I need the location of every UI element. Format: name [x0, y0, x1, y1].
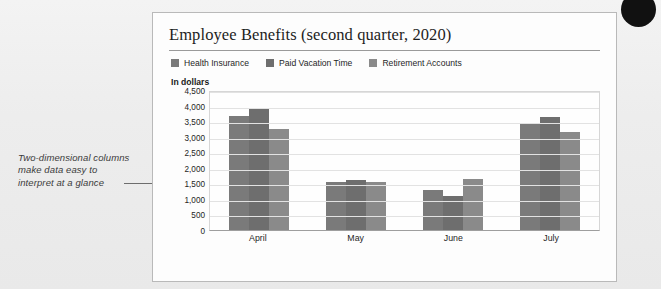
legend-item-1: Paid Vacation Time	[266, 58, 352, 68]
bar	[366, 182, 386, 230]
legend-label: Paid Vacation Time	[279, 58, 352, 68]
legend-swatch-icon	[266, 59, 274, 67]
bar	[560, 132, 580, 230]
chart-card: Employee Benefits (second quarter, 2020)…	[152, 12, 617, 282]
y-axis-tick-label: 1,500	[185, 180, 206, 189]
bar-group	[405, 92, 502, 230]
y-axis-tick-label: 0	[200, 227, 205, 236]
bar	[326, 182, 346, 230]
plot-area: 05001,0001,5002,0002,5003,0003,5004,0004…	[171, 91, 602, 249]
y-axis-tick-label: 4,500	[185, 87, 206, 96]
margin-annotation: Two-dimensional columns make data easy t…	[18, 152, 130, 189]
bar	[540, 117, 560, 230]
plot-canvas	[209, 91, 600, 231]
y-axis-tick-label: 3,000	[185, 133, 206, 142]
gridline	[210, 170, 599, 171]
x-axis-tick-label: June	[405, 233, 503, 243]
bar	[269, 129, 289, 230]
bar	[463, 179, 483, 230]
bar	[346, 180, 366, 230]
bar-groups	[210, 92, 599, 230]
gridline	[210, 139, 599, 140]
x-axis-tick-label: April	[209, 233, 307, 243]
legend-swatch-icon	[369, 59, 377, 67]
x-axis-tick-label: July	[502, 233, 600, 243]
gridline	[210, 154, 599, 155]
y-axis-tick-label: 1,000	[185, 195, 206, 204]
y-axis-tick-label: 3,500	[185, 118, 206, 127]
legend-item-2: Retirement Accounts	[369, 58, 461, 68]
bar-group	[210, 92, 307, 230]
legend-swatch-icon	[171, 59, 179, 67]
gridline	[210, 201, 599, 202]
bar-group	[502, 92, 599, 230]
bar	[423, 190, 443, 230]
bar-group	[307, 92, 404, 230]
x-axis-labels: AprilMayJuneJuly	[209, 233, 600, 243]
y-axis-unit-label: In dollars	[171, 77, 602, 87]
y-axis-labels: 05001,0001,5002,0002,5003,0003,5004,0004…	[171, 91, 205, 231]
y-axis-tick-label: 4,000	[185, 102, 206, 111]
chart-legend: Health InsurancePaid Vacation TimeRetire…	[171, 58, 600, 68]
chart-title: Employee Benefits (second quarter, 2020)	[169, 25, 600, 50]
gridline	[210, 216, 599, 217]
gridline	[210, 123, 599, 124]
legend-item-0: Health Insurance	[171, 58, 249, 68]
bar	[229, 116, 249, 230]
y-axis-tick-label: 2,000	[185, 164, 206, 173]
legend-label: Health Insurance	[184, 58, 249, 68]
bar	[520, 124, 540, 230]
y-axis-tick-label: 500	[191, 211, 205, 220]
gridline	[210, 108, 599, 109]
title-divider	[169, 50, 600, 51]
y-axis-tick-label: 2,500	[185, 149, 206, 158]
gridline	[210, 92, 599, 93]
x-axis-tick-label: May	[307, 233, 405, 243]
legend-label: Retirement Accounts	[382, 58, 461, 68]
gridline	[210, 185, 599, 186]
